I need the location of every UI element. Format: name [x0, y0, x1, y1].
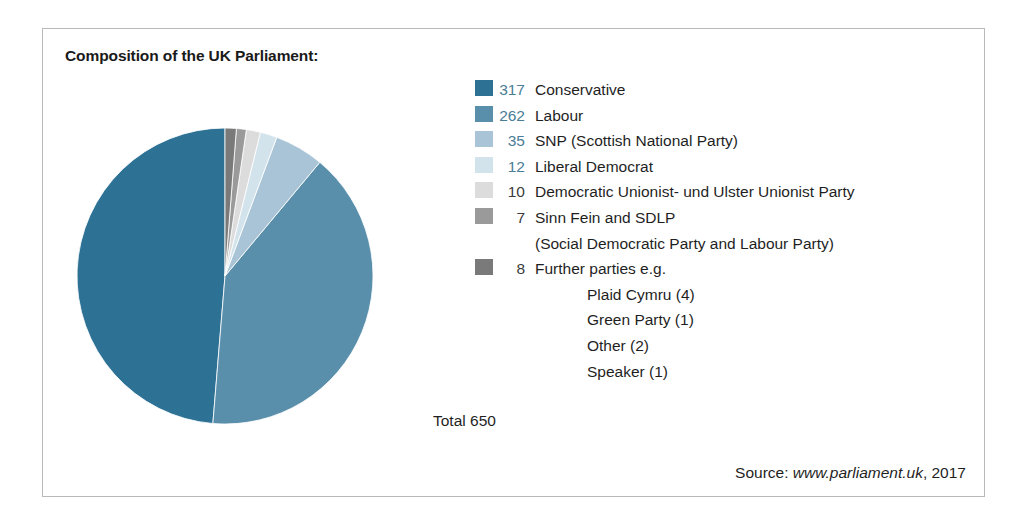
legend-row: 7Sinn Fein and SDLP: [475, 206, 975, 232]
legend-label: Further parties e.g.: [535, 257, 666, 281]
legend-row: (Social Democratic Party and Labour Part…: [475, 232, 975, 258]
total-label: Total 650: [433, 412, 496, 430]
legend-color-swatch: [475, 106, 493, 122]
legend-label: Other (2): [535, 334, 649, 358]
legend-swatch-spacer: [475, 362, 493, 378]
legend-color-swatch: [475, 182, 493, 198]
legend-value: 8: [493, 257, 535, 281]
legend-swatch-spacer: [475, 336, 493, 352]
legend-color-swatch: [475, 259, 493, 275]
legend-row: 8Further parties e.g.: [475, 257, 975, 283]
legend-value: 35: [493, 129, 535, 153]
legend-swatch-spacer: [475, 310, 493, 326]
pie-slices: [77, 128, 373, 424]
source-attribution: Source: www.parliament.uk, 2017: [735, 464, 966, 482]
legend-row: 262Labour: [475, 104, 975, 130]
legend-row: 12Liberal Democrat: [475, 155, 975, 181]
legend-color-swatch: [475, 208, 493, 224]
legend-label: Sinn Fein and SDLP: [535, 206, 675, 230]
legend-row: Speaker (1): [475, 360, 975, 386]
legend-label: Green Party (1): [535, 308, 694, 332]
legend-label: Liberal Democrat: [535, 155, 653, 179]
legend-value: 7: [493, 206, 535, 230]
legend-swatch-spacer: [475, 234, 493, 250]
legend-label: Labour: [535, 104, 583, 128]
legend-label: Democratic Unionist- und Ulster Unionist…: [535, 180, 855, 204]
legend-value: 12: [493, 155, 535, 179]
legend-row: Other (2): [475, 334, 975, 360]
chart-frame: Composition of the UK Parliament: 317Con…: [42, 28, 985, 497]
legend-row: 317Conservative: [475, 78, 975, 104]
pie-chart-svg: [60, 76, 390, 476]
legend-color-swatch: [475, 80, 493, 96]
pie-slice: [77, 128, 225, 424]
chart-title: Composition of the UK Parliament:: [65, 47, 318, 65]
legend-swatch-spacer: [475, 285, 493, 301]
legend-value: 10: [493, 180, 535, 204]
legend-color-swatch: [475, 131, 493, 147]
legend-label: Speaker (1): [535, 360, 668, 384]
legend-color-swatch: [475, 157, 493, 173]
legend-row: 10Democratic Unionist- und Ulster Unioni…: [475, 180, 975, 206]
legend-row: Green Party (1): [475, 308, 975, 334]
source-url[interactable]: www.parliament.uk: [793, 464, 923, 481]
legend-row: 35SNP (Scottish National Party): [475, 129, 975, 155]
legend-label: (Social Democratic Party and Labour Part…: [535, 232, 834, 256]
legend-value: 262: [493, 104, 535, 128]
source-prefix: Source:: [735, 464, 793, 481]
legend-label: SNP (Scottish National Party): [535, 129, 738, 153]
legend-label: Conservative: [535, 78, 625, 102]
pie-chart: [60, 76, 390, 476]
legend: 317Conservative262Labour35SNP (Scottish …: [475, 78, 975, 385]
legend-row: Plaid Cymru (4): [475, 283, 975, 309]
source-suffix: , 2017: [923, 464, 966, 481]
legend-label: Plaid Cymru (4): [535, 283, 695, 307]
legend-value: 317: [493, 78, 535, 102]
